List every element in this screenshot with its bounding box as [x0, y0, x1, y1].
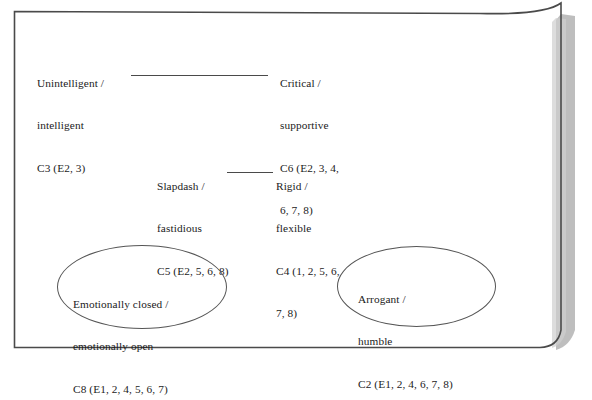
construct-c6-line-2: supportive	[280, 118, 339, 132]
construct-c3-line-3: C3 (E2, 3)	[37, 161, 104, 175]
construct-c2-line-3: C2 (E1, 2, 4, 6, 7, 8)	[358, 377, 453, 391]
construct-node-c4: Rigid / flexible C4 (1, 2, 5, 6, 7, 8)	[276, 151, 340, 348]
construct-c5-line-1: Slapdash /	[157, 179, 229, 193]
construct-c5-line-2: fastidious	[157, 221, 229, 235]
construct-c8-line-2: emotionally open	[73, 339, 169, 353]
construct-c3-line-2: intelligent	[37, 118, 104, 132]
construct-node-c2: Arrogant / humble C2 (E1, 2, 4, 6, 7, 8)	[358, 264, 453, 400]
construct-c2-line-2: humble	[358, 334, 453, 348]
construct-c4-line-1: Rigid /	[276, 179, 340, 193]
connector-line-c5-c4	[227, 172, 273, 173]
construct-c2-line-1: Arrogant /	[358, 292, 453, 306]
construct-c8-line-1: Emotionally closed /	[73, 297, 169, 311]
construct-c4-line-4: 7, 8)	[276, 306, 340, 320]
construct-c8-line-3: C8 (E1, 2, 4, 5, 6, 7)	[73, 382, 169, 396]
construct-c3-line-1: Unintelligent /	[37, 76, 104, 90]
connector-line-c3-c6	[131, 75, 268, 76]
construct-node-c3: Unintelligent / intelligent C3 (E2, 3)	[37, 48, 104, 203]
construct-node-c8: Emotionally closed / emotionally open C8…	[73, 269, 169, 400]
construct-c4-line-3: C4 (1, 2, 5, 6,	[276, 264, 340, 278]
construct-c4-line-2: flexible	[276, 221, 340, 235]
construct-c6-line-1: Critical /	[280, 76, 339, 90]
